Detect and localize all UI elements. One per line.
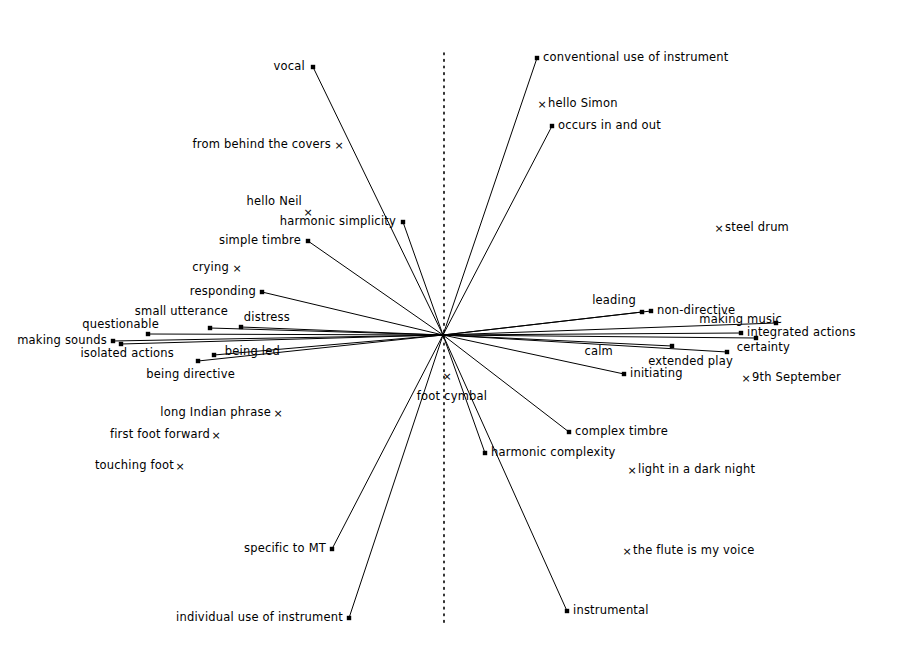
vector-line xyxy=(443,335,567,611)
vector-line xyxy=(443,335,569,432)
square-marker xyxy=(640,310,644,314)
vector-label: complex timbre xyxy=(575,426,668,438)
point-label: long Indian phrase xyxy=(160,407,271,419)
square-marker xyxy=(311,65,315,69)
vector-line xyxy=(313,67,443,335)
vector-label: specific to MT xyxy=(244,543,326,555)
square-marker xyxy=(550,124,554,128)
square-marker xyxy=(739,331,743,335)
vector-label: making music xyxy=(699,314,782,326)
square-marker xyxy=(535,56,539,60)
square-marker xyxy=(212,353,216,357)
point-label: the flute is my voice xyxy=(633,545,754,557)
vector-label: being led xyxy=(225,346,280,358)
square-marker xyxy=(401,220,405,224)
cross-marker-icon: × xyxy=(232,263,241,274)
vector-label: questionable xyxy=(82,319,159,331)
cross-marker-icon: × xyxy=(303,207,312,218)
square-marker xyxy=(565,609,569,613)
square-marker xyxy=(347,616,351,620)
square-marker xyxy=(208,326,212,330)
vector-line xyxy=(443,126,552,335)
square-marker xyxy=(111,339,115,343)
vector-label: simple timbre xyxy=(219,235,301,247)
vector-label: certainty xyxy=(737,342,790,354)
cross-marker-icon: × xyxy=(273,408,282,419)
vector-label: instrumental xyxy=(573,605,649,617)
cross-marker-icon: × xyxy=(741,373,750,384)
point-label: hello Neil xyxy=(246,196,302,208)
point-label: foot cymbal xyxy=(417,391,487,403)
point-label: steel drum xyxy=(725,222,789,234)
vector-label: conventional use of instrument xyxy=(543,52,729,64)
vector-label: isolated actions xyxy=(80,348,174,360)
vector-label: responding xyxy=(190,286,256,298)
vector-line xyxy=(332,335,443,549)
vector-line xyxy=(443,58,537,335)
vector-label: occurs in and out xyxy=(558,120,661,132)
square-marker xyxy=(196,359,200,363)
plot-canvas: vocalconventional use of instrumentoccur… xyxy=(0,0,909,655)
cross-marker-icon: × xyxy=(175,461,184,472)
vector-label: initiating xyxy=(630,368,683,380)
point-label: hello Simon xyxy=(548,98,618,110)
point-label: crying xyxy=(192,262,229,274)
cross-marker-icon: × xyxy=(537,99,546,110)
square-marker xyxy=(483,451,487,455)
vector-label: leading xyxy=(592,295,636,307)
vector-line xyxy=(308,241,443,335)
vector-label: harmonic complexity xyxy=(491,447,616,459)
point-label: 9th September xyxy=(752,372,841,384)
vector-label: calm xyxy=(584,346,613,358)
vector-label: integrated actions xyxy=(747,327,856,339)
cross-marker-icon: × xyxy=(622,546,631,557)
cross-marker-icon: × xyxy=(442,371,451,382)
vector-label: individual use of instrument xyxy=(176,612,343,624)
vector-label: vocal xyxy=(274,61,305,73)
point-label: touching foot xyxy=(95,460,174,472)
point-label: light in a dark night xyxy=(638,464,755,476)
square-marker xyxy=(649,309,653,313)
cross-marker-icon: × xyxy=(627,465,636,476)
square-marker xyxy=(670,344,674,348)
square-marker xyxy=(146,332,150,336)
vector-label: small utterance xyxy=(135,306,228,318)
square-marker xyxy=(306,239,310,243)
square-marker xyxy=(622,372,626,376)
vector-label: distress xyxy=(244,312,290,324)
vector-label: being directive xyxy=(146,369,235,381)
square-marker xyxy=(239,325,243,329)
point-label: from behind the covers xyxy=(193,139,331,151)
vector-label: harmonic simplicity xyxy=(280,216,396,228)
cross-marker-icon: × xyxy=(714,223,723,234)
cross-marker-icon: × xyxy=(334,140,343,151)
vector-label: making sounds xyxy=(17,335,107,347)
point-label: first foot forward xyxy=(110,429,210,441)
square-marker xyxy=(260,290,264,294)
square-marker xyxy=(567,430,571,434)
vector-line xyxy=(349,335,443,618)
cross-marker-icon: × xyxy=(211,430,220,441)
vector-line xyxy=(403,222,443,335)
square-marker xyxy=(330,547,334,551)
